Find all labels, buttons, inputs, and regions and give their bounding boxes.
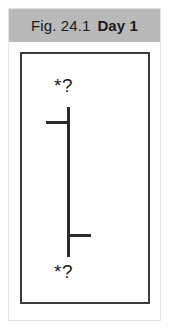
- lower-tick-mark: [67, 234, 91, 237]
- top-marker-label: *?: [54, 76, 73, 95]
- caption-day-label: Day 1: [97, 17, 138, 34]
- figure-caption: Fig. 24.1Day 1: [31, 18, 138, 33]
- upper-tick-mark: [46, 121, 70, 124]
- figure-plate: Fig. 24.1Day 1 *? *?: [0, 0, 169, 330]
- caption-figure-number: Fig. 24.1: [31, 17, 90, 34]
- figure-caption-band: Fig. 24.1Day 1: [9, 9, 160, 42]
- figure-panel: *? *?: [20, 52, 150, 304]
- bottom-marker-label: *?: [54, 262, 73, 281]
- diagram-canvas: *? *?: [22, 54, 148, 302]
